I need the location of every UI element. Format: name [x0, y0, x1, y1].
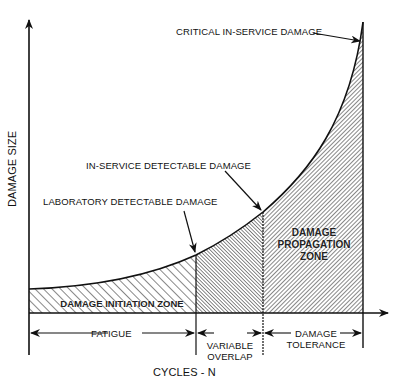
- laboratory-damage-label: LABORATORY DETECTABLE DAMAGE: [43, 196, 218, 207]
- propagation-line-3: ZONE: [268, 251, 360, 263]
- variable-line-1: VARIABLE: [200, 340, 260, 351]
- initiation-zone-label: DAMAGE INITIATION ZONE: [48, 298, 196, 310]
- tolerance-line-1: DAMAGE: [276, 328, 356, 339]
- variable-line-2: OVERLAP: [200, 351, 260, 362]
- damage-tolerance-label: DAMAGE TOLERANCE: [276, 328, 356, 350]
- propagation-zone-area: [263, 22, 363, 313]
- propagation-line-2: PROPAGATION: [268, 239, 360, 251]
- x-axis-label: CYCLES - N: [153, 366, 216, 378]
- variable-overlap-label: VARIABLE OVERLAP: [200, 340, 260, 362]
- overlap-zone-area: [196, 212, 263, 313]
- critical-damage-label: CRITICAL IN-SERVICE DAMAGE: [176, 26, 322, 37]
- inservice-damage-label: IN-SERVICE DETECTABLE DAMAGE: [86, 160, 251, 171]
- arrow-inservice: [225, 171, 261, 210]
- y-axis-label: DAMAGE SIZE: [6, 137, 18, 207]
- propagation-line-1: DAMAGE: [268, 227, 360, 239]
- fatigue-label: FATIGUE: [91, 328, 132, 339]
- arrow-laboratory: [184, 211, 195, 252]
- tolerance-line-2: TOLERANCE: [276, 339, 356, 350]
- propagation-zone-label: DAMAGE PROPAGATION ZONE: [268, 227, 360, 263]
